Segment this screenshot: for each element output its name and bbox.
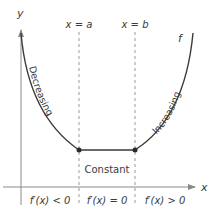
increasing-label: Increasing	[150, 90, 183, 136]
point-a	[77, 148, 82, 153]
derivative-positive-label: f′(x) > 0	[145, 195, 186, 206]
derivative-zero-label: f′(x) = 0	[87, 195, 128, 206]
derivative-negative-label: f′(x) < 0	[30, 195, 71, 206]
function-curve	[21, 33, 193, 150]
monotonicity-diagram: y x x = a x = b f Decreasing Increasing …	[0, 0, 217, 213]
function-label: f	[178, 32, 184, 45]
y-axis-label: y	[16, 7, 24, 20]
guide-label-b: x = b	[120, 19, 148, 30]
x-axis-label: x	[200, 181, 208, 194]
guide-label-a: x = a	[65, 19, 93, 30]
decreasing-label: Decreasing	[27, 65, 56, 118]
constant-label: Constant	[85, 164, 130, 175]
point-b	[133, 148, 138, 153]
